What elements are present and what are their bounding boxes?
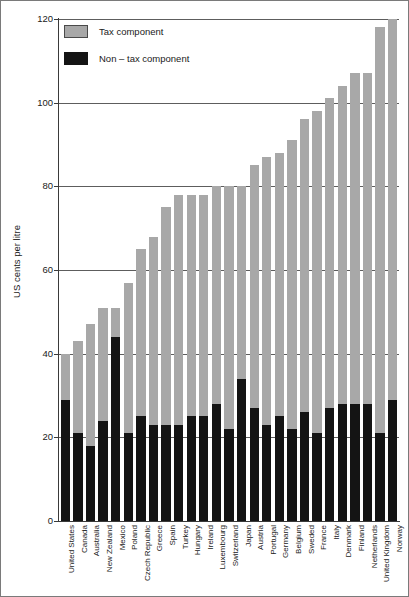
x-tick-label: Luxembourg [219, 525, 227, 569]
bar-segment-non-tax [375, 433, 384, 521]
bar-segment-tax [61, 354, 70, 400]
bar [199, 195, 208, 521]
bar [275, 153, 284, 521]
bar [237, 186, 246, 521]
chart-figure: US cents per litre 020406080100120 Unite… [0, 0, 409, 597]
bar [212, 186, 221, 521]
x-tick-label: Sweded [308, 525, 316, 554]
legend-label-tax: Tax component [99, 26, 163, 37]
bar-segment-tax [187, 195, 196, 417]
bar [325, 98, 334, 521]
bar [73, 341, 82, 521]
bar-segment-tax [363, 73, 372, 403]
y-axis-tick-labels: 020406080100120 [1, 1, 53, 597]
y-tick-mark-80 [54, 186, 59, 187]
bar-segment-non-tax [350, 404, 359, 521]
x-tick-label: Greece [156, 525, 164, 551]
bar [86, 324, 95, 521]
bar-segment-non-tax [300, 412, 309, 521]
bar-segment-tax [212, 186, 221, 404]
bar-segment-non-tax [325, 408, 334, 521]
bar-segment-non-tax [287, 429, 296, 521]
bar-segment-tax [174, 195, 183, 425]
bar [161, 207, 170, 521]
bar-segment-tax [161, 207, 170, 425]
x-tick-label: Japan [245, 525, 253, 547]
x-axis-tick-labels: United StatesCanadaAustraliaNew ZealandM… [59, 525, 399, 595]
x-tick-label: Ireland [207, 525, 215, 549]
bar [124, 283, 133, 521]
bar-segment-non-tax [111, 337, 120, 521]
bar-segment-non-tax [388, 400, 397, 521]
bar [300, 119, 309, 521]
x-tick-label: Austria [257, 525, 265, 550]
bar-segment-non-tax [98, 421, 107, 521]
plot-area [59, 19, 399, 521]
x-tick-label: New Zealand [106, 525, 114, 572]
x-tick-label: France [320, 525, 328, 550]
x-tick-label: Denmark [345, 525, 353, 557]
bar-segment-non-tax [312, 433, 321, 521]
y-tick-label-100: 100 [37, 98, 53, 108]
bar-segment-non-tax [149, 425, 158, 521]
bar-segment-tax [73, 341, 82, 433]
bar-segment-tax [237, 186, 246, 378]
chart-legend: Tax component Non – tax component [64, 25, 189, 79]
y-tick-label-20: 20 [42, 432, 53, 442]
x-tick-label: Norway [396, 525, 404, 552]
bar-segment-non-tax [136, 416, 145, 521]
bar [98, 308, 107, 521]
y-tick-label-0: 0 [48, 516, 53, 526]
bar-segment-tax [124, 283, 133, 434]
x-tick-label: Switzerland [232, 525, 240, 566]
bar [111, 308, 120, 521]
bar-segment-non-tax [174, 425, 183, 521]
x-tick-label: Finland [358, 525, 366, 551]
bar-segment-tax [287, 140, 296, 429]
bar-segment-tax [375, 27, 384, 433]
bar-segment-non-tax [338, 404, 347, 521]
bar [388, 19, 397, 521]
legend-swatch-tax-icon [64, 25, 88, 38]
bar-segment-tax [312, 111, 321, 433]
bar [287, 140, 296, 521]
x-tick-label: Turkey [182, 525, 190, 549]
bar [363, 73, 372, 521]
bar-segment-non-tax [250, 408, 259, 521]
bar [149, 237, 158, 521]
bar-segment-non-tax [212, 404, 221, 521]
bar [338, 86, 347, 521]
y-tick-mark-100 [54, 103, 59, 104]
bar-segment-tax [98, 308, 107, 421]
x-tick-label: Italy [333, 525, 341, 540]
y-tick-mark-20 [54, 437, 59, 438]
bar-segment-non-tax [275, 416, 284, 521]
bar [61, 354, 70, 521]
bar-segment-non-tax [199, 416, 208, 521]
bar [250, 165, 259, 521]
y-tick-mark-40 [54, 354, 59, 355]
legend-swatch-nontax-icon [64, 52, 88, 65]
bar [187, 195, 196, 521]
x-tick-label: United States [68, 525, 76, 573]
bar-segment-tax [275, 153, 284, 417]
y-tick-label-40: 40 [42, 349, 53, 359]
bar-segment-non-tax [187, 416, 196, 521]
bar-segment-tax [111, 308, 120, 337]
y-tick-label-80: 80 [42, 181, 53, 191]
bar-segment-non-tax [161, 425, 170, 521]
bar-segment-tax [250, 165, 259, 408]
bar-segment-non-tax [61, 400, 70, 521]
x-tick-label: Hungary [194, 525, 202, 555]
x-tick-label: Australia [93, 525, 101, 556]
bar [224, 186, 233, 521]
bar-segment-non-tax [224, 429, 233, 521]
bar-segment-non-tax [363, 404, 372, 521]
x-tick-label: Poland [131, 525, 139, 550]
bar-segment-tax [199, 195, 208, 417]
x-tick-label: Czech Republic [144, 525, 152, 581]
bar-segment-tax [350, 73, 359, 403]
bar-segment-tax [262, 157, 271, 425]
y-tick-label-60: 60 [42, 265, 53, 275]
x-axis-line [58, 521, 400, 522]
